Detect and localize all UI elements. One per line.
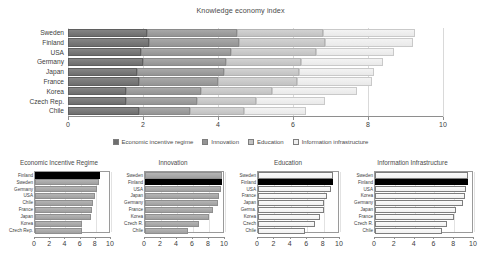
subchart-bar (258, 186, 331, 192)
main-chart-bar-segment (68, 87, 126, 95)
main-chart-bar-segment (68, 107, 139, 115)
legend-swatch-icon (248, 139, 254, 145)
subchart-bar-row: Czech Rep. (35, 228, 111, 234)
main-chart-row-label: Chile (49, 106, 64, 115)
main-chart-bar-segment (244, 107, 306, 115)
subchart-x-tick (224, 237, 225, 239)
main-chart-bar-segment (149, 38, 239, 46)
main-chart-bar-row: Sweden (68, 29, 443, 37)
subchart-x-tick (290, 237, 291, 239)
main-chart-x-tick (143, 117, 144, 120)
main-chart-bar-row: Finland (68, 38, 443, 46)
subchart-bar-row: Finland (35, 172, 111, 178)
subchart-row-label: Chile (246, 227, 256, 234)
subchart-bar-row: Korea (258, 214, 340, 220)
subchart-x-tick (176, 237, 177, 239)
subchart-bar-row: Japan (145, 193, 225, 199)
subchart-bar-row: France (145, 207, 225, 213)
main-chart-row-label: USA (50, 48, 64, 57)
subchart-1: Economic Incentive RegimeFinlandSwedenGe… (0, 157, 118, 271)
subchart-x-tick-label: 0 (372, 240, 376, 247)
main-chart-bar-row: USA (68, 48, 443, 56)
subchart-bar-row: France (35, 207, 111, 213)
legend-swatch-icon (202, 139, 208, 145)
subchart-row-label: Chile (363, 227, 373, 234)
subchart-gridline (111, 172, 112, 232)
main-chart-row-label: Czech Rep. (30, 97, 64, 106)
main-chart-row-label: Finland (42, 38, 64, 47)
subchart-bar (375, 228, 442, 234)
subchart-x-tick (49, 237, 50, 239)
main-chart-x-tick (293, 117, 294, 120)
subchart-bar-row: Chile (35, 200, 111, 206)
chart-legend: Economic incentive regimeInnovationEduca… (0, 139, 481, 145)
main-chart-bar-segment (143, 58, 226, 66)
legend-swatch-icon (113, 139, 119, 145)
subchart-title: Information Infrastructure (344, 159, 481, 166)
main-chart-row-label: Sweden (40, 28, 64, 37)
legend-label: Information infrastructure (302, 139, 369, 145)
subchart-bar-row: Japan (258, 200, 340, 206)
subchart-bar (35, 228, 82, 234)
subchart-x-tick (257, 237, 258, 239)
subchart-bar-row: France (258, 193, 340, 199)
main-chart-bar-row: Czech Rep. (68, 97, 443, 105)
main-chart-title: Knowledge economy index (0, 6, 481, 15)
subchart-x-tick-label: 8 (93, 240, 97, 247)
subchart-bar-row: Chile (375, 228, 474, 234)
main-chart-bar-segment (68, 77, 139, 85)
subchart-3: EducationSwedenFinlandUSAFranceJapanGerm… (229, 157, 347, 271)
legend-label: Innovation (211, 139, 239, 145)
subchart-bar (35, 193, 95, 199)
subchart-x-tick (323, 237, 324, 239)
legend-item[interactable]: Innovation (202, 139, 239, 145)
legend-label: Education (257, 139, 284, 145)
main-chart-bar-segment (218, 77, 297, 85)
main-chart-x-tick-label: 2 (141, 121, 145, 128)
main-chart-bar-segment (256, 97, 325, 105)
subchart-bar (258, 200, 324, 206)
subchart-bar (375, 200, 463, 206)
subchart-bar (145, 200, 218, 206)
subchart-x-axis-line (257, 237, 339, 238)
subchart-bar-highlighted (375, 179, 468, 185)
legend-item[interactable]: Information infrastructure (293, 139, 369, 145)
main-chart-bar-segment (299, 68, 374, 76)
subchart-x-tick-label: 2 (158, 240, 162, 247)
subchart-x-tick (433, 237, 434, 239)
subchart-bar (35, 221, 82, 227)
legend-label: Economic incentive regime (122, 139, 194, 145)
subchart-bar-row: Germa. (258, 207, 340, 213)
legend-item[interactable]: Economic incentive regime (113, 139, 194, 145)
subchart-bar-row: Sweden (375, 172, 474, 178)
subchart-4: Information InfrastructureSwedenFinlandU… (344, 157, 481, 271)
subchart-x-tick-label: 8 (321, 240, 325, 247)
main-chart-bar-segment (297, 77, 372, 85)
main-chart-bar-segment (323, 29, 415, 37)
legend-item[interactable]: Education (248, 139, 284, 145)
subchart-title: Education (229, 159, 347, 166)
main-chart-bar-segment (126, 87, 201, 95)
main-chart-bar-segment (68, 58, 143, 66)
subchart-bar (258, 228, 305, 234)
subchart-bar-row: Czech R. (375, 221, 474, 227)
subchart-x-tick-label: 2 (392, 240, 396, 247)
main-chart-bar-segment (316, 48, 395, 56)
subchart-bar (145, 186, 221, 192)
main-chart-bar-row: Korea (68, 87, 443, 95)
subchart-2: InnovationSwedenFinlandUSAJapanGermanyFr… (114, 157, 232, 271)
subchart-x-tick-label: 4 (412, 240, 416, 247)
main-chart-x-tick-label: 0 (66, 121, 70, 128)
subchart-bar (375, 186, 466, 192)
main-chart-x-tick-label: 4 (216, 121, 220, 128)
subchart-gridline (225, 172, 226, 232)
subchart-bar-row: Sweden (258, 172, 340, 178)
main-chart-plot-area: SwedenFinlandUSAGermanyJapanFranceKoreaC… (68, 28, 443, 116)
subchart-bar-highlighted (145, 179, 222, 185)
subchart-row-label: Chile (133, 227, 143, 234)
main-chart-bar-row: Japan (68, 68, 443, 76)
main-chart-x-tick (68, 117, 69, 120)
main-chart-x-tick-label: 8 (366, 121, 370, 128)
subchart-x-tick (144, 237, 145, 239)
subchart-bar-row: Japan (375, 207, 474, 213)
